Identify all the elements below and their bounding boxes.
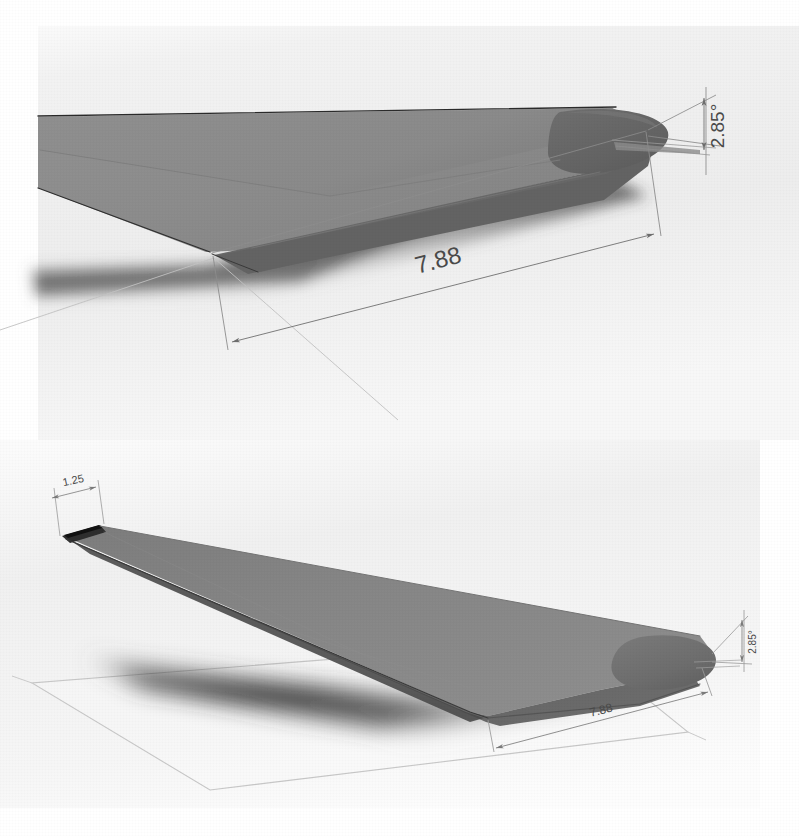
paper-right-margin-bottom	[760, 440, 799, 836]
paper-left-margin-top	[0, 0, 38, 440]
top-view-canvas: 7.88 2.85°	[0, 0, 799, 440]
wing-root-closeup-view: 7.88 2.85°	[0, 0, 799, 440]
cad-sheet: 7.88 2.85°	[0, 0, 799, 836]
paper-top-margin	[0, 0, 799, 26]
full-wing-isometric-view: 1.25 7.88 2.85°	[0, 440, 799, 836]
paper-bottom-margin	[0, 808, 799, 836]
angle-dimension-label: 2.85°	[707, 104, 728, 149]
bottom-view-canvas: 1.25 7.88 2.85°	[0, 440, 799, 836]
angle-dimension-label-bottom: 2.85°	[747, 630, 758, 653]
